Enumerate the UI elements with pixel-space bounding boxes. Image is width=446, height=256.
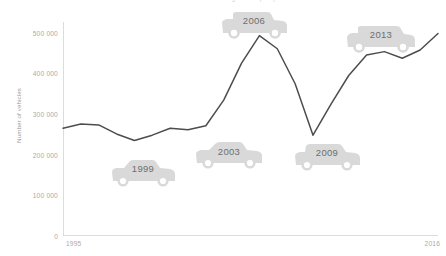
x-tick-2016: 2016 xyxy=(425,240,440,247)
line-chart: Number of vehicles registered per year N… xyxy=(0,0,446,256)
y-tick-300000: 300 000 xyxy=(2,111,58,118)
y-tick-0: 0 xyxy=(2,233,58,240)
data-line-series xyxy=(63,22,438,236)
chart-title-clipped: Number of vehicles registered per year xyxy=(0,0,446,5)
y-axis-ticks: 500 000 400 000 300 000 200 000 100 000 … xyxy=(0,0,58,256)
y-tick-200000: 200 000 xyxy=(2,152,58,159)
x-tick-1995: 1995 xyxy=(66,240,81,247)
y-tick-100000: 100 000 xyxy=(2,192,58,199)
page-title: Number of vehicles registered per year xyxy=(159,0,287,1)
y-tick-500000: 500 000 xyxy=(2,30,58,37)
y-tick-400000: 400 000 xyxy=(2,70,58,77)
plot-area: 1999 2003 2006 xyxy=(63,22,438,236)
